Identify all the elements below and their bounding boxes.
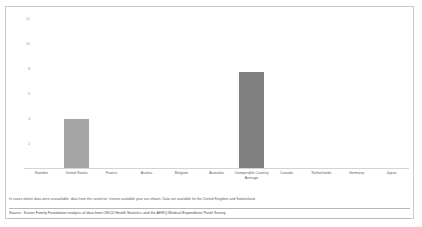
x-axis-label: Canada bbox=[269, 171, 304, 176]
x-axis-label: Netherlands bbox=[304, 171, 339, 176]
bar bbox=[64, 119, 89, 169]
bars-layer bbox=[24, 7, 409, 169]
chart-figure: 12108642 SwedenUnited StatesFranceAustri… bbox=[5, 6, 414, 219]
x-axis-category-labels: SwedenUnited StatesFranceAustriaBelgiumA… bbox=[24, 171, 409, 197]
x-axis-label: Australia bbox=[199, 171, 234, 176]
x-axis-label: Japan bbox=[374, 171, 409, 176]
x-axis-label: Germany bbox=[339, 171, 374, 176]
x-axis-label: Austria bbox=[129, 171, 164, 176]
source-divider bbox=[9, 218, 410, 219]
footnote-divider bbox=[9, 208, 410, 209]
x-axis-baseline bbox=[24, 168, 409, 169]
bar bbox=[239, 72, 264, 169]
x-axis-label: Sweden bbox=[24, 171, 59, 176]
x-axis-label: United States bbox=[59, 171, 94, 176]
x-axis-label: France bbox=[94, 171, 129, 176]
x-axis-label: Belgium bbox=[164, 171, 199, 176]
plot-area: 12108642 bbox=[6, 7, 413, 170]
chart-source: Source : Kaiser Family Foundation analys… bbox=[9, 211, 410, 216]
chart-footnote: In cases where data were unavailable, da… bbox=[9, 197, 410, 202]
x-axis-label: Comparable Country Average bbox=[234, 171, 269, 180]
